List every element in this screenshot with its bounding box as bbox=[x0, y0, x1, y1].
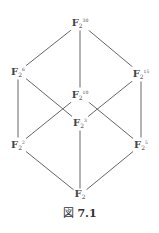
field-base: 2 bbox=[140, 73, 144, 80]
field-base: 2 bbox=[141, 144, 145, 151]
caption-prefix: 図 bbox=[63, 207, 74, 220]
field-exponent: 10 bbox=[83, 90, 89, 95]
edge-10-2 bbox=[18, 95, 80, 145]
node-f2-15: F215 bbox=[132, 67, 151, 82]
node-f2-6: F26 bbox=[10, 65, 26, 80]
edge-2-1 bbox=[18, 145, 80, 195]
field-base: 2 bbox=[80, 122, 84, 129]
edge-10-5 bbox=[80, 95, 141, 145]
field-exponent: 3 bbox=[84, 118, 87, 123]
figure-caption: 図7.1 bbox=[63, 204, 96, 220]
node-f2-5: F25 bbox=[133, 138, 149, 153]
field-exponent: 2 bbox=[22, 140, 25, 145]
field-base: 2 bbox=[79, 94, 83, 101]
field-exponent: 15 bbox=[144, 69, 150, 74]
field-base: 2 bbox=[18, 71, 22, 78]
node-f2: F2 bbox=[74, 189, 87, 202]
field-base: 2 bbox=[79, 22, 83, 29]
field-base: 2 bbox=[18, 144, 22, 151]
field-exponent: 30 bbox=[83, 18, 89, 23]
node-f2-3: F23 bbox=[72, 116, 88, 131]
field-exponent: 5 bbox=[145, 140, 148, 145]
edge-5-1 bbox=[80, 145, 141, 195]
caption-number: 7.1 bbox=[77, 207, 96, 220]
field-base: 2 bbox=[82, 193, 86, 200]
node-f2-30: F230 bbox=[71, 16, 90, 31]
node-f2-10: F210 bbox=[71, 88, 90, 103]
node-f2-2: F22 bbox=[10, 138, 26, 153]
field-exponent: 6 bbox=[22, 67, 25, 72]
